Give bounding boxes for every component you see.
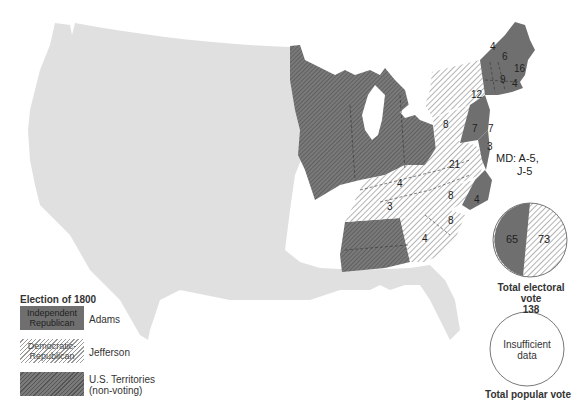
- legend-swatch-adams: Independent Republican: [20, 306, 84, 330]
- legend-swatch-jefferson-text: Democratic-Republican: [28, 341, 77, 361]
- vote-label-north-carolina-east: 4: [474, 195, 480, 205]
- maryland-note-line1: MD: A-5,: [496, 153, 539, 164]
- electoral-vote-caption: Total electoral vote 138: [486, 282, 576, 315]
- popular-vote-caption: Total popular vote: [478, 389, 578, 400]
- electoral-caption-line2: 138: [486, 304, 576, 315]
- vote-label-new-york: 12: [471, 90, 482, 100]
- electoral-caption-line1: Total electoral vote: [486, 282, 576, 304]
- vote-label-delaware: 3: [487, 142, 493, 152]
- legend-label-adams: Adams: [89, 314, 120, 325]
- vote-label-rhode-island: 4: [512, 79, 518, 89]
- vote-label-connecticut: 9: [500, 75, 506, 85]
- legend-title: Election of 1800: [20, 294, 96, 305]
- legend-swatch-jefferson: Democratic-Republican: [20, 339, 84, 363]
- legend-swatch-adams-text: Independent Republican: [27, 308, 77, 328]
- vote-label-kentucky: 4: [397, 179, 403, 189]
- vote-label-south-carolina: 8: [448, 216, 454, 226]
- vote-label-new-jersey-2: 7: [488, 124, 494, 134]
- vote-label-vermont: 4: [490, 42, 496, 52]
- legend-territories-line1: U.S. Territories: [89, 374, 155, 385]
- vote-label-new-jersey: 7: [472, 124, 478, 134]
- vote-label-tennessee: 3: [387, 202, 393, 212]
- legend-territories-line2: (non-voting): [89, 385, 155, 396]
- south-carolina-georgia-state: [400, 210, 465, 262]
- pie-adams-value: 65: [506, 234, 518, 245]
- vote-label-virginia: 21: [449, 160, 460, 170]
- popular-text-line2: data: [492, 350, 562, 361]
- maryland-note-line2: J-5: [517, 166, 532, 177]
- vote-label-north-carolina: 8: [448, 191, 454, 201]
- legend-swatch-territories: [20, 372, 84, 396]
- legend-label-jefferson: Jefferson: [89, 347, 130, 358]
- vote-label-massachusetts: 16: [514, 64, 525, 74]
- legend-label-territories: U.S. Territories (non-voting): [89, 374, 155, 396]
- vote-label-georgia: 4: [422, 234, 428, 244]
- mississippi-territory: [340, 218, 410, 272]
- popular-text-line1: Insufficient: [492, 339, 562, 350]
- electoral-vote-pie: [485, 202, 567, 277]
- vote-label-pennsylvania: 8: [443, 120, 449, 130]
- pie-jefferson-value: 73: [538, 234, 550, 245]
- vote-label-new-hampshire: 6: [502, 52, 508, 62]
- popular-vote-text: Insufficient data: [492, 339, 562, 361]
